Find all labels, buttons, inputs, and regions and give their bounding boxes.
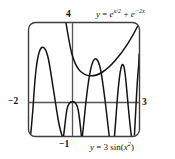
curve-sine — [31, 47, 63, 136]
bottom-eq-close-paren: ) — [131, 142, 134, 152]
x-axis-tick-label-right: 3 — [142, 98, 147, 108]
top-eq-equals: = — [100, 9, 110, 19]
bottom-eq-equals: = — [94, 142, 104, 152]
top-eq-term1-exponent: x/2 — [114, 7, 122, 14]
plot-svg — [0, 0, 175, 159]
bottom-equation-label: y = 3 sin(x2) — [90, 141, 134, 152]
top-equation-label: y = ex/2 + e−2x — [96, 8, 145, 19]
curve-sine-outer-right — [115, 65, 132, 136]
bottom-eq-function: sin( — [110, 142, 124, 152]
x-axis-tick-label-left: −2 — [8, 97, 18, 107]
function-plot-figure: y = ex/2 + e−2x y = 3 sin(x2) 4 −1 −2 3 — [0, 0, 175, 159]
y-axis-tick-label-bottom: −1 — [59, 140, 69, 150]
top-eq-term2-exponent: −2x — [135, 7, 145, 14]
y-axis-tick-label-top: 4 — [66, 10, 71, 20]
top-eq-plus: + — [121, 9, 131, 19]
curve-exponential — [66, 23, 139, 76]
curve-sine-edge-right — [134, 54, 139, 136]
